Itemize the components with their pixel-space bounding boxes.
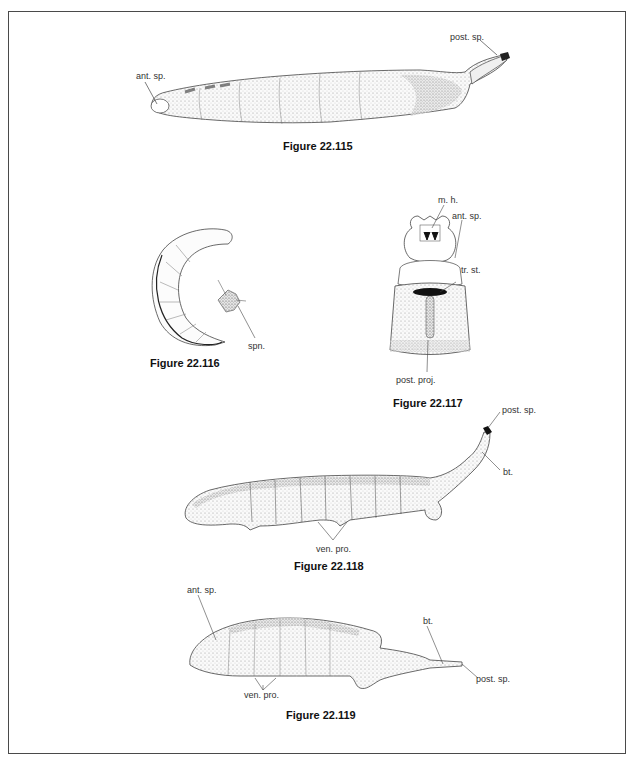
label-bt-118: bt. (503, 468, 513, 477)
larva-fig-22-118 (185, 412, 500, 540)
label-post-sp-119: post. sp. (476, 675, 510, 684)
caption-fig-22-115: Figure 22.115 (283, 141, 353, 152)
label-ant-sp-117: ant. sp. (452, 212, 482, 221)
label-spn-116: spn. (248, 342, 265, 351)
label-mh-117: m. h. (438, 196, 458, 205)
label-ant-sp-115: ant. sp. (136, 72, 166, 81)
label-ant-sp-119: ant. sp. (187, 586, 217, 595)
label-ven-pro-119: ven. pro. (244, 691, 279, 700)
label-post-sp-118: post. sp. (502, 406, 536, 415)
larva-fig-22-115 (145, 40, 510, 124)
caption-fig-22-118: Figure 22.118 (294, 561, 364, 572)
caption-fig-22-119: Figure 22.119 (286, 710, 356, 721)
caption-fig-22-117: Figure 22.117 (393, 398, 463, 409)
larva-illustrations (0, 0, 635, 763)
larva-fig-22-116 (152, 229, 255, 346)
label-post-proj-117: post. proj. (396, 376, 436, 385)
label-tr-st-117: tr. st. (461, 266, 481, 275)
label-post-sp-115: post. sp. (450, 33, 484, 42)
label-bt-119: bt. (423, 617, 433, 626)
larva-fig-22-119 (190, 595, 478, 690)
label-ven-pro-118: ven. pro. (316, 545, 351, 554)
caption-fig-22-116: Figure 22.116 (150, 358, 220, 369)
larva-fig-22-117 (390, 205, 470, 372)
